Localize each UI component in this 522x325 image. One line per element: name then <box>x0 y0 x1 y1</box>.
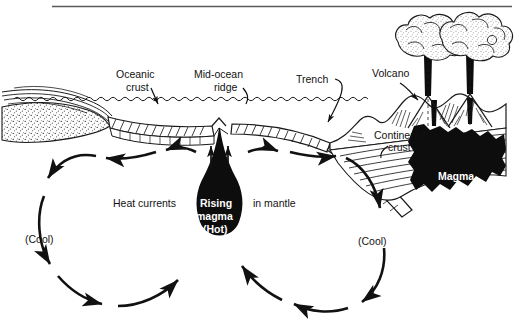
label-mid-ocean-ridge-line2: ridge <box>214 81 238 93</box>
label-heat-currents: Heat currents <box>113 197 176 209</box>
plate-tectonics-diagram: Oceanic crust Mid-ocean ridge Trench Vol… <box>0 0 522 325</box>
label-mid-ocean-ridge-line1: Mid-ocean <box>194 68 243 80</box>
label-cool-left: (Cool) <box>25 233 54 245</box>
label-rising-magma-line3: (Hot) <box>203 223 228 235</box>
label-rising-magma-line2: magma <box>196 210 233 222</box>
left-landmass <box>2 86 112 142</box>
diagram-canvas: Oceanic crust Mid-ocean ridge Trench Vol… <box>0 0 522 325</box>
label-oceanic-crust-line1: Oceanic <box>116 68 155 80</box>
label-cool-right: (Cool) <box>358 235 387 247</box>
label-continental-crust-line2: crust <box>388 141 411 153</box>
label-trench: Trench <box>296 73 328 85</box>
convection-cell-left <box>39 148 196 306</box>
label-continental-crust-line1: Continental <box>374 129 427 141</box>
label-volcano: Volcano <box>372 67 410 79</box>
label-rising-magma-line1: Rising <box>200 197 232 209</box>
label-oceanic-crust-line2: crust <box>126 81 149 93</box>
label-in-mantle: in mantle <box>253 197 296 209</box>
label-magma: Magma <box>438 170 474 182</box>
